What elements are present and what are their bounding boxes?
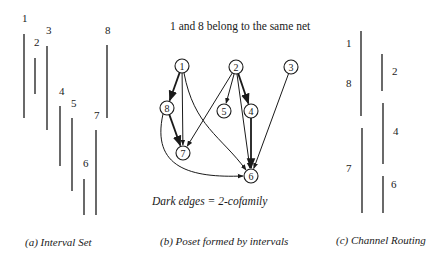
track-label-1: 1 <box>346 38 352 49</box>
caption-channel-routing: (c) Channel Routing <box>336 234 426 246</box>
channel-routing-figure <box>0 0 439 268</box>
caption-poset: (b) Poset formed by intervals <box>160 235 288 247</box>
track-label-8: 8 <box>346 78 352 89</box>
track-label-4: 4 <box>393 126 399 137</box>
track-label-7: 7 <box>346 163 352 174</box>
track-label-2: 2 <box>392 66 398 77</box>
track-label-6: 6 <box>391 179 397 190</box>
caption-interval-set: (a) Interval Set <box>25 236 92 248</box>
